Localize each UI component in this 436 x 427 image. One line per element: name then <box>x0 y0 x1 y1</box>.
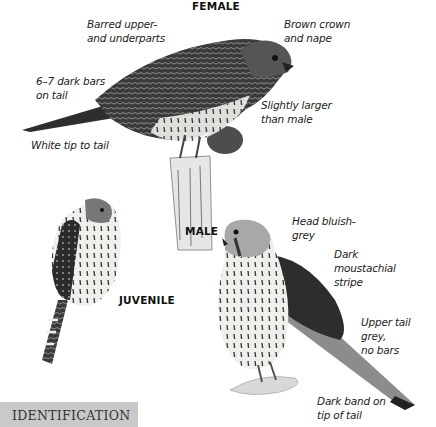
bird-illustrations <box>0 0 436 427</box>
label-dark-band-tail-tip: Dark band on tip of tail <box>317 394 386 422</box>
identification-page: FEMALE Barred upper- and underparts Brow… <box>0 0 436 427</box>
label-slightly-larger: Slightly larger than male <box>261 98 332 126</box>
male-heading: MALE <box>185 225 218 237</box>
label-dark-bars-on-tail: 6–7 dark bars on tail <box>36 74 105 102</box>
label-brown-crown-nape: Brown crown and nape <box>284 17 350 45</box>
label-dark-moustachial-stripe: Dark moustachial stripe <box>334 247 396 289</box>
label-head-bluish-grey: Head bluish- grey <box>292 214 355 242</box>
label-upper-tail-grey: Upper tail grey, no bars <box>361 315 436 357</box>
label-barred-upper-underparts: Barred upper- and underparts <box>87 17 165 45</box>
perch-rock <box>230 377 298 395</box>
identification-banner: IDENTIFICATION <box>0 402 138 427</box>
label-white-tip-to-tail: White tip to tail <box>31 138 109 152</box>
juvenile-bird-figure <box>42 198 121 364</box>
juvenile-heading: JUVENILE <box>119 294 175 306</box>
section-title: IDENTIFICATION <box>12 408 130 423</box>
female-heading: FEMALE <box>192 0 240 12</box>
